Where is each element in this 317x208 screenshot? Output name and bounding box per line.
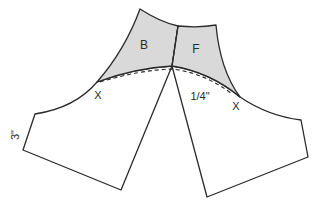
left-sleeve-piece — [23, 66, 172, 190]
notch-right-label: X — [232, 100, 240, 112]
back-label: B — [140, 38, 148, 52]
seam-allowance-label: 1/4" — [190, 90, 209, 102]
right-sleeve-piece — [172, 66, 308, 197]
pattern-diagram: B F X X 1/4" 3" — [0, 0, 317, 208]
length-label: 3" — [9, 130, 21, 140]
notch-left-label: X — [94, 89, 102, 101]
front-label: F — [192, 42, 199, 56]
